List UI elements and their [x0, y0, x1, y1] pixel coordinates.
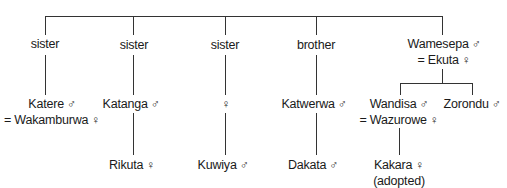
connector	[45, 16, 46, 35]
male-icon: ♂	[151, 97, 160, 111]
person-name: Katanga	[103, 97, 148, 111]
sibling-bar	[45, 16, 443, 17]
connector	[442, 16, 443, 35]
person-unnamed-female: ♀	[222, 96, 231, 112]
relation-label: brother	[297, 38, 335, 52]
connector	[225, 16, 226, 35]
person-name: Dakata	[288, 158, 326, 172]
person-rikuta: Rikuta♀	[109, 157, 155, 173]
person-wamesepa: Wamesepa♂ = Ekuta♀	[408, 36, 481, 68]
connector	[133, 55, 134, 95]
female-icon: ♀	[91, 113, 100, 127]
relation-label: sister	[120, 38, 149, 52]
kinship-tree: sister sister sister brother Wamesepa♂ =…	[0, 0, 507, 188]
connector	[316, 113, 317, 155]
connector	[472, 83, 473, 95]
connector	[45, 55, 46, 95]
connector	[225, 55, 226, 95]
connector	[316, 55, 317, 95]
person-kakara: Kakara♀ (adopted)	[373, 157, 425, 188]
connector	[316, 16, 317, 35]
person-dakata: Dakata♂	[288, 157, 338, 173]
female-icon: ♀	[462, 53, 471, 67]
person-name: Katere	[28, 97, 64, 111]
children-bar	[400, 83, 473, 84]
male-icon: ♂	[492, 97, 501, 111]
person-name: Wandisa	[370, 97, 417, 111]
relation-sister-2: sister	[120, 37, 149, 53]
person-katere: Katere♂ = Wakamburwa♀	[4, 96, 100, 128]
female-icon: ♀	[146, 158, 155, 172]
relation-sister-1: sister	[31, 36, 60, 52]
person-name: Wamesepa	[408, 37, 469, 51]
spouse-name: = Ekuta	[417, 53, 458, 67]
connector	[133, 16, 134, 35]
person-wandisa: Wandisa♂ = Wazurowe♀	[359, 96, 438, 128]
male-icon: ♂	[338, 97, 347, 111]
connector	[442, 69, 443, 83]
person-name: Kuwiya	[198, 158, 237, 172]
connector	[225, 113, 226, 155]
person-katwerwa: Katwerwa♂	[281, 96, 346, 112]
spouse-name: = Wazurowe	[359, 113, 426, 127]
male-icon: ♂	[419, 97, 428, 111]
connector	[400, 83, 401, 95]
relation-label: sister	[31, 37, 60, 51]
spouse-name: = Wakamburwa	[4, 113, 88, 127]
person-zorondu: Zorondu♂	[444, 96, 501, 112]
male-icon: ♂	[329, 158, 338, 172]
male-icon: ♂	[472, 37, 481, 51]
relation-label: sister	[211, 38, 240, 52]
adopted-note: (adopted)	[373, 173, 425, 188]
relation-sister-3: sister	[211, 37, 240, 53]
person-katanga: Katanga♂	[103, 96, 160, 112]
person-name: Kakara	[374, 158, 412, 172]
person-name: Zorondu	[444, 97, 489, 111]
person-name: Rikuta	[109, 158, 143, 172]
female-icon: ♀	[222, 97, 231, 111]
relation-brother: brother	[297, 37, 335, 53]
person-name: Katwerwa	[281, 97, 334, 111]
connector	[133, 113, 134, 155]
male-icon: ♂	[67, 97, 76, 111]
person-kuwiya: Kuwiya♂	[198, 157, 249, 173]
female-icon: ♀	[415, 158, 424, 172]
male-icon: ♂	[240, 158, 249, 172]
connector	[399, 128, 400, 155]
female-icon: ♀	[430, 113, 439, 127]
